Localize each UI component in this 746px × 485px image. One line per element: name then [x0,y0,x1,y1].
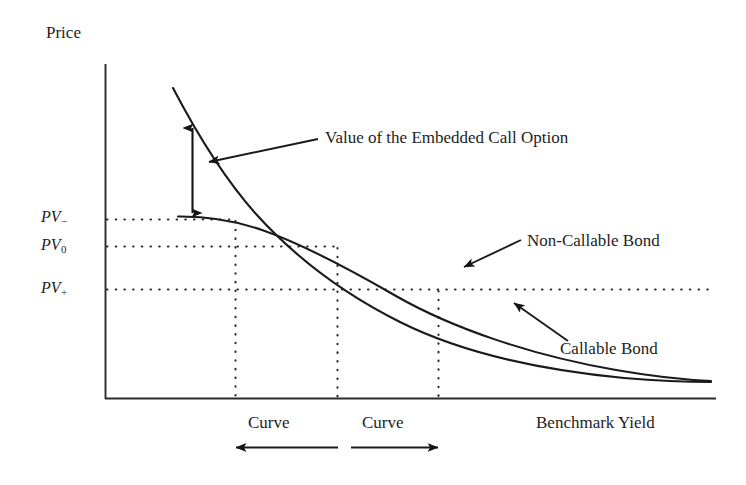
x-axis-title: Benchmark Yield [536,414,655,431]
ytick-pv-minus-sub: − [61,215,68,227]
ytick-pv-zero-base: PV [41,236,61,253]
ytick-pv-minus: PV− [41,209,67,227]
non-callable-leader [464,240,521,267]
annotation-non-callable-bond: Non-Callable Bond [527,232,660,249]
annotation-call-option: Value of the Embedded Call Option [325,129,568,146]
price-yield-chart: Price Benchmark Yield PV− PV0 PV+ Value … [0,0,746,485]
ytick-pv-minus-base: PV [41,208,61,225]
call-option-leader [209,139,318,162]
callable-leader [514,303,568,341]
annotation-curve-right: Curve [362,414,404,431]
ytick-pv-plus: PV+ [41,280,67,298]
ytick-pv-plus-base: PV [41,279,61,296]
annotation-callable-bond: Callable Bond [560,340,658,357]
ytick-pv-zero-sub: 0 [61,243,67,255]
ytick-pv-plus-sub: + [61,286,68,298]
ytick-pv-zero: PV0 [41,237,67,255]
y-axis-title: Price [46,24,81,41]
annotation-curve-left: Curve [248,414,290,431]
